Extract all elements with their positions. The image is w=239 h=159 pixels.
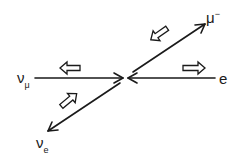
nu-mu-momentum-arrow (35, 73, 123, 83)
muon-charge-superscript: − (215, 9, 220, 19)
nu-mu-symbol: ν (17, 69, 25, 86)
electron-symbol: e (219, 70, 227, 87)
nu-e-label: νe (36, 135, 49, 154)
nu-mu-label: νμ (17, 70, 30, 89)
electron-momentum-arrow (128, 73, 215, 83)
muon-label: μ− (206, 10, 220, 26)
nu-e-spin-arrow-icon (57, 89, 80, 111)
nu-e-subscript: e (44, 145, 49, 155)
nu-mu-spin-arrow-icon (60, 62, 80, 74)
electron-spin-arrow-icon (183, 62, 205, 74)
muon-symbol: μ (206, 9, 215, 26)
muon-spin-arrow-icon (147, 23, 170, 44)
electron-label: e (219, 71, 227, 87)
muon-momentum-arrow (133, 24, 205, 72)
nu-e-momentum-arrow (48, 83, 120, 131)
nu-mu-subscript: μ (25, 80, 30, 90)
nu-e-symbol: ν (36, 134, 44, 151)
